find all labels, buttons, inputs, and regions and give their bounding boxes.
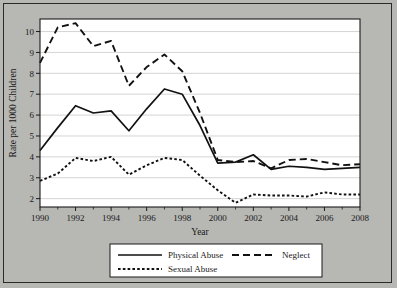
plot-background [40, 19, 360, 207]
x-tick-label: 1990 [31, 213, 50, 223]
x-tick-label: 2008 [351, 213, 370, 223]
x-tick-label: 1994 [102, 213, 121, 223]
y-tick-label: 8 [30, 69, 35, 79]
legend: Physical AbuseNeglectSexual Abuse [110, 244, 322, 277]
x-tick-label: 1996 [138, 213, 157, 223]
x-tick-label: 2004 [280, 213, 299, 223]
y-tick-label: 6 [30, 110, 35, 120]
x-axis-ticks: 1990199219941996199820002002200420062008 [31, 207, 370, 223]
y-tick-label: 2 [30, 194, 35, 204]
x-tick-label: 1998 [173, 213, 192, 223]
x-tick-label: 2002 [244, 213, 262, 223]
y-tick-label: 5 [30, 131, 35, 141]
x-axis-label: Year [191, 227, 209, 237]
line-chart: 1990199219941996199820002002200420062008… [0, 0, 397, 288]
y-tick-label: 3 [30, 173, 35, 183]
y-tick-label: 9 [30, 48, 35, 58]
legend-label: Neglect [282, 250, 310, 260]
legend-label: Sexual Abuse [168, 264, 217, 274]
figure: 1990199219941996199820002002200420062008… [0, 0, 397, 288]
y-tick-label: 4 [30, 152, 35, 162]
y-axis-ticks: 2345678910 [25, 27, 40, 204]
x-tick-label: 1992 [67, 213, 85, 223]
x-tick-label: 2006 [315, 213, 334, 223]
legend-label: Physical Abuse [168, 250, 223, 260]
y-tick-label: 7 [30, 89, 35, 99]
y-axis-label: Rate per 1000 Children [8, 68, 18, 157]
y-tick-label: 10 [25, 27, 35, 37]
x-tick-label: 2000 [209, 213, 228, 223]
